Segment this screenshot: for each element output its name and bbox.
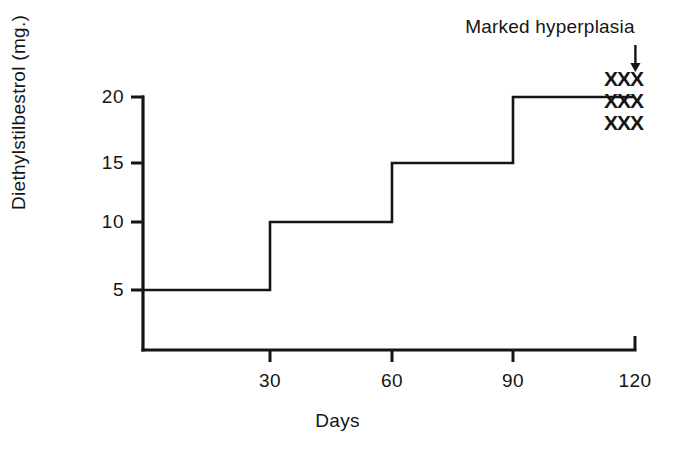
y-axis-label: Diethylstilbestrol (mg.): [8, 0, 30, 210]
x-axis-label: Days: [0, 410, 675, 432]
y-tick-label-20: 20: [72, 86, 124, 108]
dose-step-line: [143, 97, 635, 290]
x-tick-label-120: 120: [618, 370, 651, 392]
x-tick-label-60: 60: [381, 370, 403, 392]
annotation-label: Marked hyperplasia: [440, 16, 660, 38]
hyperplasia-mark-row-1: XXX: [604, 68, 670, 89]
hyperplasia-mark-row-3: XXX: [604, 112, 670, 133]
x-tick-label-30: 30: [259, 370, 281, 392]
y-tick-label-5: 5: [72, 279, 124, 301]
chart-figure: Diethylstilbestrol (mg.) Days 20 15 10 5…: [0, 0, 675, 469]
hyperplasia-mark-row-2: XXX: [604, 90, 670, 111]
y-tick-label-15: 15: [72, 152, 124, 174]
x-tick-label-90: 90: [502, 370, 524, 392]
y-tick-label-10: 10: [72, 211, 124, 233]
step-chart-plot: [0, 0, 675, 469]
